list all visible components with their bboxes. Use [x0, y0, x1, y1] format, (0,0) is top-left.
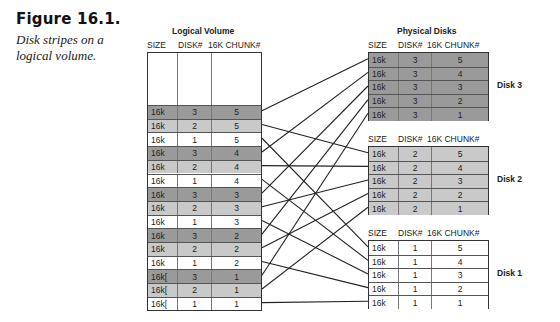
stripe-link: [262, 113, 368, 275]
stripe-link: [262, 301, 368, 302]
stripe-link: [262, 194, 368, 248]
stripe-link: [262, 125, 368, 153]
stripe-link: [262, 100, 368, 235]
stripe-mapping-lines: [0, 0, 560, 322]
stripe-link: [262, 138, 368, 247]
